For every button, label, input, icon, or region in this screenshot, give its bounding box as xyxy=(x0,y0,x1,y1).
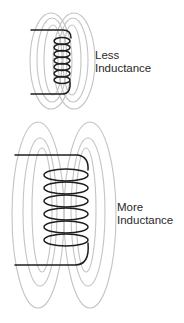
less-inductance-line1: Less xyxy=(95,49,151,62)
more-inductance-label: More Inductance xyxy=(117,201,173,227)
less-inductance-line2: Inductance xyxy=(95,62,151,75)
inductance-diagram xyxy=(0,0,184,323)
large-coil-field-lines xyxy=(12,122,116,308)
less-inductance-label: Less Inductance xyxy=(95,49,151,75)
more-inductance-line2: Inductance xyxy=(117,214,173,227)
more-inductance-line1: More xyxy=(117,201,173,214)
